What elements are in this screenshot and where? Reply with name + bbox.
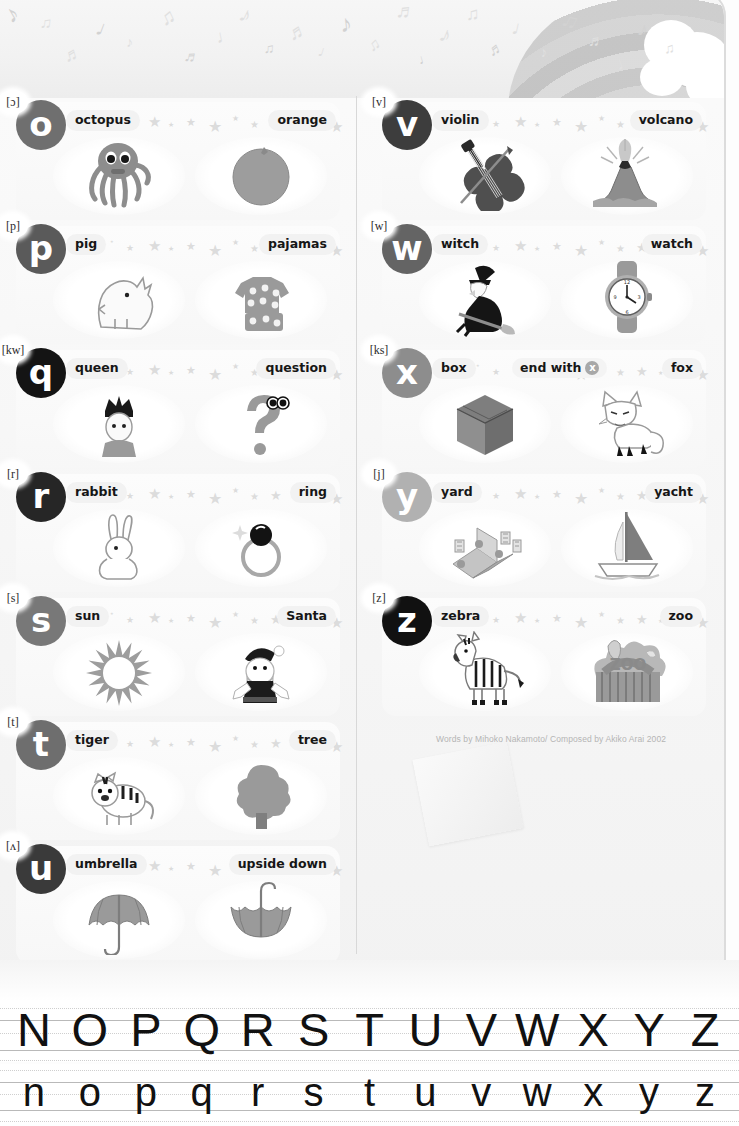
letter-row-w: ★★★★★★★★★★★★★★★[w]wwitchwatch 12369 [360,220,716,344]
lowercase-letter-t: t [342,1070,398,1115]
word-label-Santa[interactable]: Santa [277,606,336,627]
rabbit-icon-art [81,509,157,587]
word-label-rabbit[interactable]: rabbit [66,482,127,503]
umbrella-icon [50,880,188,960]
word-label-yacht[interactable]: yacht [645,482,702,503]
word-label-zebra[interactable]: zebra [432,606,489,627]
lowercase-letter-n: n [6,1070,62,1115]
word-label-octopus[interactable]: octopus [66,110,140,131]
word-label-ring[interactable]: ring [290,482,336,503]
music-note-icon: ♬ [394,0,417,24]
word-label-sun[interactable]: sun [66,606,109,627]
witch-icon-art [445,258,525,342]
question-mark-icon-art [223,385,299,463]
fox-icon [558,384,696,464]
letter-row-t: ★★★★★★★★★★★★★★★[t]ttigertree [0,716,350,840]
word-label-queen[interactable]: queen [66,358,128,379]
word-label-question[interactable]: question [256,358,336,379]
tree-icon-art [223,757,299,835]
ring-icon [192,508,330,588]
pig-icon [50,260,188,340]
music-note-icon: ♪ [0,0,24,29]
umbrella-icon-art [81,881,157,959]
lowercase-letter-x: x [565,1070,621,1115]
witch-icon [416,260,554,340]
word-label-box[interactable]: box [432,358,476,379]
lowercase-letter-p: p [118,1070,174,1115]
column-divider [356,96,357,954]
word-label-violin[interactable]: violin [432,110,489,131]
yard-icon [416,508,554,588]
word-label-yard[interactable]: yard [432,482,482,503]
uppercase-letter-O: O [62,1002,118,1057]
rabbit-icon [50,508,188,588]
top-banner: ♪♫♬♩♪♫♬♩♪♫♬♩♪♫♬♩♪♫♬♩♪♫♬♩♪♫ [0,0,726,98]
tiger-icon [50,756,188,836]
letter-row-v: ★★★★★★★★★★★★★★★[v]vviolinvolcano [360,96,716,220]
yacht-icon [558,508,696,588]
word-label-tiger[interactable]: tiger [66,730,118,751]
fox-icon-art [585,384,669,464]
uppercase-letter-Q: Q [174,1002,230,1057]
box-icon-art [445,385,525,463]
svg-text:3: 3 [637,294,640,300]
upside-down-umbrella-icon-art [223,881,299,959]
orange-icon-art [223,137,299,215]
uppercase-letter-X: X [565,1002,621,1057]
uppercase-letter-U: U [397,1002,453,1057]
uppercase-letter-N: N [6,1002,62,1057]
lowercase-letter-z: z [677,1070,733,1115]
uppercase-letter-T: T [342,1002,398,1057]
word-label-pig[interactable]: pig [66,234,106,255]
word-label-zoo[interactable]: zoo [660,606,702,627]
word-label-volcano[interactable]: volcano [630,110,702,131]
music-note-icon: ♫ [466,4,480,25]
orange-icon [192,136,330,216]
violin-icon-art [445,137,525,215]
card-bottom-fade [0,960,739,1002]
letter-row-u: ★★★★★★★★★★★★★★★[ʌ]uumbrellaupside down [0,840,350,964]
music-note-icon: ♪ [126,34,134,50]
word-label-orange[interactable]: orange [268,110,336,131]
word-label-umbrella[interactable]: umbrella [66,854,147,875]
volcano-icon-art [587,137,667,215]
word-label-tree[interactable]: tree [289,730,336,751]
uppercase-letter-Z: Z [677,1002,733,1057]
box-icon [416,384,554,464]
lowercase-letter-r: r [230,1070,286,1115]
uppercase-letters: NOPQRSTUVWXYZ [0,1000,739,1062]
phonetic-symbol: [w] [364,214,394,238]
word-label-pajamas[interactable]: pajamas [259,234,336,255]
queen-icon-art [81,385,157,463]
paper-scrap-decoration [412,742,523,847]
music-note-icon: ♬ [285,17,312,45]
music-note-icon: ♩ [92,15,122,47]
svg-text:12: 12 [624,279,630,285]
word-label-upside-down[interactable]: upside down [229,854,336,875]
santa-icon [192,632,330,712]
pajamas-icon-art [223,261,299,339]
lowercase-letter-w: w [509,1070,565,1115]
violin-icon [416,136,554,216]
practice-row-uppercase: NOPQRSTUVWXYZ [0,1000,739,1062]
lowercase-letter-o: o [62,1070,118,1115]
letter-row-o: ★★★★★★★★★★★★★★★[ɔ]ooctopusorange [0,96,350,220]
music-note-icon: ♬ [485,38,507,61]
page-card: ♪♫♬♩♪♫♬♩♪♫♬♩♪♫♬♩♪♫♬♩♪♫♬♩♪♫ ★★★★★★★★★★★★★… [0,0,726,995]
word-label-witch[interactable]: witch [432,234,488,255]
word-label-watch[interactable]: watch [642,234,702,255]
zoo-icon: ZOO [558,632,696,712]
uppercase-letter-Y: Y [621,1002,677,1057]
letter-row-q: ★★★★★★★★★★★★★★★[kw]qqueenquestion [0,344,350,468]
phonetic-symbol: [j] [364,462,394,486]
music-note-icon: ♬ [61,42,84,67]
music-note-icon: ♫ [364,34,383,56]
watch-icon: 12369 [558,260,696,340]
word-label-fox[interactable]: fox [662,358,702,379]
practice-row-lowercase: nopqrstuvwxyz [0,1064,739,1126]
sun-icon-art [81,633,157,711]
lowercase-letter-v: v [453,1070,509,1115]
end-with-note: end withx [512,358,607,378]
music-note-icon: ♫ [663,40,675,57]
music-note-icon: ♩ [416,48,434,67]
